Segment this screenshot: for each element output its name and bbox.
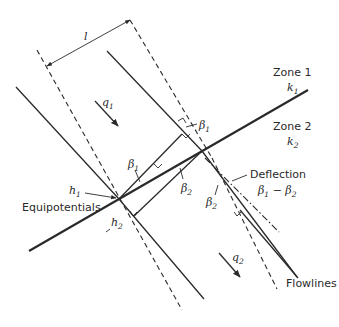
flowlines-label: Flowlines (286, 277, 337, 290)
right-angle-marker (130, 211, 137, 216)
flowline-left (16, 87, 204, 299)
right-angle-marker (178, 118, 186, 123)
deflection-leader (232, 175, 247, 181)
length-dimension: l (47, 20, 130, 66)
zone1-label: Zone 1 (273, 66, 312, 79)
flow-label-q2: q2 (232, 251, 244, 266)
right-angle-marker (154, 164, 162, 168)
beta2-right-label: β2 (205, 196, 217, 211)
flowline-right-lower-segment (240, 210, 298, 278)
flow-label-q1: q1 (102, 96, 114, 111)
zone2-label: Zone 2 (273, 120, 312, 133)
beta2-right-leader (215, 185, 218, 195)
dashed-line-left (37, 50, 182, 310)
head-h1-label: h1 (69, 184, 81, 199)
dimension-label: l (84, 30, 88, 43)
deflection-label: Deflection (250, 168, 306, 181)
zone2-conductivity: k2 (287, 135, 299, 150)
dimension-arrow (47, 20, 130, 66)
equipotentials-label: Equipotentials (22, 201, 101, 214)
deflection-expression: β1 − β2 (257, 184, 297, 199)
flow-refraction-diagram: l q1 q2 Zone 1 k1 Zone 2 k2 β1 β1 β2 β2 … (0, 0, 339, 327)
head-h2-label: h2 (111, 216, 123, 231)
h2-pointer-tick (106, 229, 110, 232)
h1-pointer-arrow (85, 193, 116, 198)
beta2-mid-label: β2 (180, 182, 192, 197)
zone1-conductivity: k1 (287, 81, 298, 96)
beta1-upper-label: β1 (198, 119, 210, 134)
beta1-mid-label: β1 (127, 158, 139, 173)
dashed-construction-lines (37, 20, 279, 310)
